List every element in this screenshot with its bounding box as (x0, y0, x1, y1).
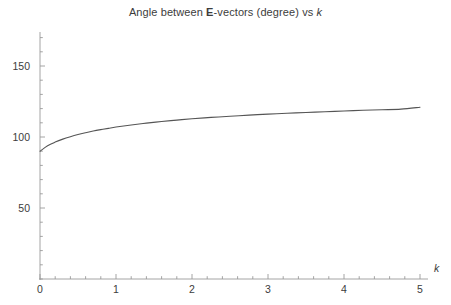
y-tick-label: 150 (12, 60, 30, 72)
x-tick-label: 3 (265, 283, 271, 295)
series-line-angle (40, 107, 420, 151)
x-axis-label: k (434, 262, 440, 274)
x-tick-label: 4 (341, 283, 347, 295)
x-tick-label: 0 (37, 283, 43, 295)
data-series-group (40, 107, 420, 151)
x-tick-label: 1 (113, 283, 119, 295)
y-axis: 50100150 (12, 32, 45, 280)
x-tick-label: 5 (417, 283, 423, 295)
x-tick-label: 2 (189, 283, 195, 295)
y-tick-label: 100 (12, 131, 30, 143)
plot-area: 50100150 012345 k (0, 0, 451, 305)
y-tick-label: 50 (18, 202, 30, 214)
x-axis: 012345 (37, 274, 428, 295)
chart-figure: Angle between E-vectors (degree) vs k 50… (0, 0, 451, 305)
